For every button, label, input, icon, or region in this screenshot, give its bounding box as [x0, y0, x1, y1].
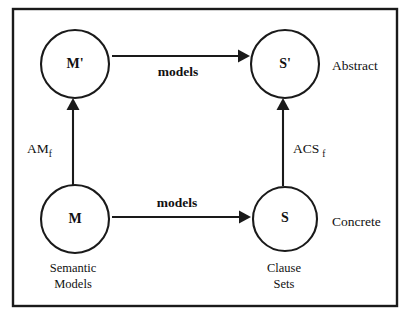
- node-s-prime-label: S': [279, 56, 291, 71]
- edge-models-bottom-label: models: [157, 195, 198, 210]
- caption-clause-sets: Clause Sets: [267, 261, 301, 291]
- edge-am-f-label-subscript: f: [49, 149, 53, 159]
- diagram-svg: models models AMf ACSf M' S': [0, 0, 410, 319]
- node-s: S: [253, 187, 317, 251]
- edge-models-bottom-arrowhead: [239, 211, 251, 224]
- edge-acs-f-label: ACSf: [293, 141, 326, 159]
- edge-acs-f-label-base: ACS: [293, 141, 319, 156]
- caption-semantic-models-line1: Semantic: [50, 261, 97, 275]
- level-label-concrete: Concrete: [332, 214, 381, 229]
- caption-semantic-models-line2: Models: [54, 277, 92, 291]
- edge-models-top-arrowhead: [238, 50, 250, 63]
- edge-am-f-label-base: AM: [27, 141, 49, 156]
- caption-clause-sets-line2: Sets: [274, 277, 295, 291]
- edge-am-f: AMf: [27, 98, 80, 186]
- node-s-prime: S': [251, 30, 319, 98]
- node-m: M: [41, 185, 109, 253]
- edge-acs-f-label-subscript: f: [322, 149, 326, 159]
- node-s-label: S: [281, 210, 289, 225]
- caption-semantic-models: Semantic Models: [50, 261, 97, 291]
- edge-models-top: models: [112, 50, 250, 80]
- edge-am-f-arrowhead: [67, 98, 80, 110]
- edge-acs-f: ACSf: [277, 98, 327, 186]
- edge-models-top-label: models: [158, 64, 199, 79]
- edge-acs-f-arrowhead: [277, 98, 290, 110]
- node-m-label: M: [68, 211, 81, 226]
- edge-am-f-label: AMf: [27, 141, 53, 159]
- edge-models-bottom: models: [112, 195, 251, 224]
- caption-clause-sets-line1: Clause: [267, 261, 301, 275]
- node-m-prime: M': [41, 30, 109, 98]
- diagram-canvas: models models AMf ACSf M' S': [0, 0, 410, 319]
- level-label-abstract: Abstract: [332, 58, 378, 73]
- node-m-prime-label: M': [66, 56, 83, 71]
